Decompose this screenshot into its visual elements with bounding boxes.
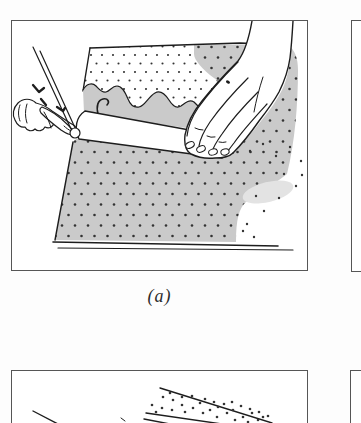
handle-shading-mark <box>33 85 44 92</box>
brayer-illustration <box>12 21 307 270</box>
figure-panel-a <box>11 20 308 271</box>
table-edge-lines <box>53 242 293 250</box>
panel-a-caption: (a) <box>11 286 308 307</box>
stipple-dot-band <box>151 392 270 423</box>
figure-panel-c-cropped <box>11 370 308 423</box>
diagonal-lines-illustration <box>12 371 307 423</box>
roller-axle-knob <box>70 128 80 138</box>
figure-panel-b-cropped <box>351 20 361 272</box>
figure-panel-d-cropped <box>350 370 361 423</box>
scanned-figure-page: { "page": { "caption_a": "(a)", "panels"… <box>0 0 361 423</box>
